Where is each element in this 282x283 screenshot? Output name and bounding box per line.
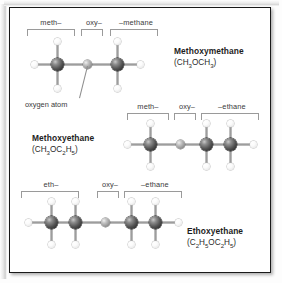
atom-hydrogen: [250, 141, 257, 148]
molecule-model-2: [105, 103, 270, 173]
atom-hydrogen: [72, 198, 79, 205]
atom-hydrogen: [114, 85, 121, 92]
atom-hydrogen: [152, 241, 159, 248]
compound-name-2: Methoxyethane (CH3OC2H5): [32, 133, 94, 158]
atom-hydrogen: [72, 241, 79, 248]
compound-name-3: Ethoxyethane (C2H5OC2H5): [187, 226, 243, 251]
panel-shadow-top: [4, 0, 279, 6]
atom-hydrogen: [114, 38, 121, 45]
compound-name-text-2: Methoxyethane: [32, 133, 94, 144]
atom-hydrogen: [152, 198, 159, 205]
atom-carbon: [125, 216, 138, 229]
atom-carbon: [69, 216, 82, 229]
atom-carbon: [45, 216, 58, 229]
compound-formula-3: (C2H5OC2H5): [187, 237, 243, 251]
atom-hydrogen: [175, 219, 182, 226]
atom-hydrogen: [147, 120, 154, 127]
atom-hydrogen: [137, 61, 144, 68]
atom-hydrogen: [203, 163, 210, 170]
atom-hydrogen: [203, 120, 210, 127]
atom-hydrogen: [54, 85, 61, 92]
atom-carbon: [224, 138, 237, 151]
panel-shadow-left: [0, 4, 7, 279]
atom-hydrogen: [128, 198, 135, 205]
molecule-model-1: [10, 8, 180, 98]
atom-hydrogen: [48, 198, 55, 205]
atom-hydrogen: [31, 61, 38, 68]
atom-hydrogen: [147, 163, 154, 170]
compound-formula-2: (CH3OC2H5): [32, 144, 94, 158]
atom-oxygen: [176, 140, 186, 150]
atom-carbon: [51, 58, 64, 71]
figure-canvas: meth– oxy– –methane: [0, 0, 282, 283]
atom-carbon: [149, 216, 162, 229]
atom-carbon: [111, 58, 124, 71]
atom-hydrogen: [227, 163, 234, 170]
molecule-model-3: [10, 181, 200, 253]
atom-hydrogen: [54, 38, 61, 45]
atom-hydrogen: [124, 141, 131, 148]
atom-hydrogen: [128, 241, 135, 248]
compound-name-text-3: Ethoxyethane: [187, 226, 243, 237]
compound-formula-1: (CH3OCH3): [174, 57, 244, 71]
oxygen-atom-callout-label: oxygen atom: [25, 100, 67, 109]
compound-name-1: Methoxymethane (CH3OCH3): [174, 46, 244, 71]
atom-hydrogen: [48, 241, 55, 248]
atom-hydrogen: [25, 219, 32, 226]
atom-hydrogen: [227, 120, 234, 127]
atom-carbon: [200, 138, 213, 151]
diagram-frame: meth– oxy– –methane: [9, 7, 271, 273]
compound-name-text-1: Methoxymethane: [174, 46, 244, 57]
atom-carbon: [144, 138, 157, 151]
atom-oxygen: [101, 218, 111, 228]
